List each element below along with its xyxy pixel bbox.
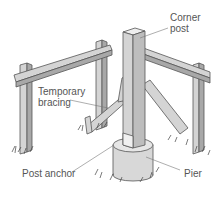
label-pier: Pier [184, 168, 202, 179]
corner-post [123, 28, 145, 148]
label-line: post [170, 23, 201, 34]
post-anchor-bracket [123, 133, 133, 148]
label-temporary-bracing: Temporary bracing [38, 86, 85, 108]
label-post-anchor: Post anchor [22, 168, 75, 179]
post-framing-diagram: Corner post Temporary bracing Post ancho… [0, 0, 224, 201]
bracing-right [142, 80, 188, 134]
label-line: Corner [170, 12, 201, 23]
label-corner-post: Corner post [170, 12, 201, 34]
label-line: bracing [38, 97, 85, 108]
label-line: Temporary [38, 86, 85, 97]
